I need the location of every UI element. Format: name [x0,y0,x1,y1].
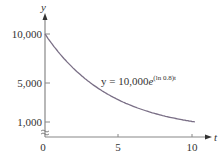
y-tick-label: 10,000 [12,28,43,40]
x-axis-label: t [214,131,218,143]
x-tick-label: 0 [40,141,46,153]
y-axis-label: y [40,1,46,13]
chart: y t 10,000 5,000 1,000 0 5 10 y = 10,000… [0,0,223,159]
y-axis-arrow-icon [43,13,48,20]
y-tick-label: 5,000 [17,77,42,89]
x-tick-label: 5 [115,141,121,153]
equation-label: y = 10,000e(ln 0.8)t [101,74,176,87]
y-tick-label: 1,000 [17,116,42,128]
x-tick-label: 10 [187,141,199,153]
x-axis-arrow-icon [205,135,212,140]
